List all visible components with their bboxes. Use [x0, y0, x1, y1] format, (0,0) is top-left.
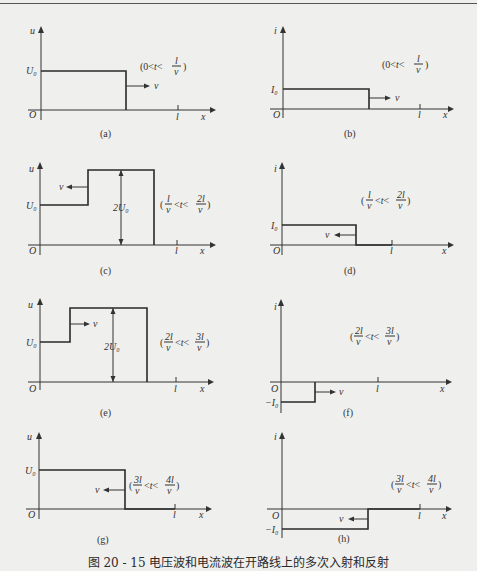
- i-axis-label: i: [274, 25, 277, 36]
- ineq: <t<: [144, 480, 158, 491]
- frac1-num: l: [167, 193, 170, 204]
- frac2-den: v: [167, 485, 172, 496]
- panel-h: v i −I₀ O l x ( 3l v <t< 4l v ) (h): [240, 420, 477, 550]
- time-range-e: (: [160, 337, 164, 349]
- frac2-num: 4l: [428, 473, 436, 484]
- U0-label: U₀: [26, 65, 37, 76]
- origin-label: O: [273, 245, 280, 256]
- frac2-num: 2l: [197, 193, 205, 204]
- current-wave: [283, 89, 369, 109]
- dim-arrow-down-icon: [119, 239, 124, 245]
- x-label: x: [442, 109, 448, 120]
- x-label: x: [199, 245, 205, 256]
- y-axis-arrow-icon: [37, 298, 43, 305]
- panel-caption-f: (f): [343, 407, 353, 419]
- dim-arrow-down-icon: [111, 376, 116, 382]
- neg-I0-label: −I₀: [265, 524, 279, 535]
- origin-label: O: [271, 383, 278, 394]
- l-label: l: [176, 111, 179, 122]
- velocity-arrow-icon: [103, 488, 109, 493]
- frac2-den: v: [198, 204, 203, 215]
- neg-I0-label: −I₀: [265, 397, 279, 408]
- time-range-b: (0<t<: [382, 59, 405, 71]
- x-axis-arrow-icon: [446, 379, 452, 385]
- l-label: l: [174, 383, 177, 394]
- velocity-label: v: [93, 318, 98, 329]
- u-axis-label: u: [27, 431, 32, 442]
- x-axis-arrow-icon: [206, 506, 212, 512]
- x-axis-arrow-icon: [448, 106, 454, 112]
- panel-e: 2U₀ v u U₀ O l x ( 2l v <t< 3l v ) (e): [0, 270, 240, 420]
- frac1-num: 2l: [165, 331, 173, 342]
- u-axis-label: u: [29, 163, 34, 174]
- x-axis-arrow-icon: [446, 506, 452, 512]
- frac-den: v: [416, 64, 421, 75]
- U0-label: U₀: [26, 200, 37, 211]
- frac1-den: v: [135, 485, 140, 496]
- panel-b: v i I₀ O l x (0<t< l v ) (b): [240, 0, 477, 140]
- time-range-h: (: [391, 479, 395, 491]
- origin-label: O: [29, 383, 36, 394]
- paren: ): [176, 480, 179, 492]
- voltage-wave: [41, 71, 126, 110]
- frac1-num: 3l: [395, 473, 404, 484]
- frac1-den: v: [166, 342, 171, 353]
- frac1-den: v: [367, 200, 372, 211]
- panel-caption-h: (h): [338, 533, 350, 545]
- ineq: <t<: [406, 479, 420, 490]
- l-label: l: [376, 383, 379, 394]
- ineq: <t<: [174, 199, 188, 210]
- current-wave: [281, 382, 315, 402]
- u-axis-label: u: [28, 299, 33, 310]
- y-axis-arrow-icon: [279, 432, 285, 439]
- frac2-den: v: [197, 342, 202, 353]
- frac2-den: v: [398, 200, 403, 211]
- l-label: l: [390, 245, 393, 256]
- x-label: x: [198, 509, 204, 520]
- U0-label: U₀: [26, 337, 37, 348]
- l-label: l: [418, 109, 421, 120]
- velocity-arrow-icon: [66, 185, 72, 190]
- velocity-arrow-icon: [348, 517, 354, 522]
- frac1-den: v: [397, 484, 402, 495]
- origin-label: O: [272, 510, 279, 521]
- paren: ): [396, 331, 399, 343]
- time-range-d: (: [361, 195, 365, 207]
- x-label: x: [441, 245, 447, 256]
- panel-c: 2U₀ v u U₀ O l x ( l v <t< 2l v ) (c): [0, 130, 240, 270]
- l-label: l: [418, 510, 421, 521]
- velocity-label: v: [395, 92, 400, 103]
- velocity-arrow-icon: [385, 96, 391, 101]
- l-label: l: [173, 509, 176, 520]
- i-axis-label: i: [274, 163, 277, 174]
- panel-f: v i −I₀ O l x ( 2l v <t< 3l v ) (f): [240, 270, 477, 420]
- panel-g: v u U₀ O l x ( 3l v <t< 4l v ) (g): [0, 420, 240, 550]
- dim-arrow-up-icon: [111, 308, 116, 314]
- ineq: <t<: [365, 331, 379, 342]
- x-label: x: [200, 111, 206, 122]
- y-axis-arrow-icon: [36, 432, 42, 439]
- 2U0-label: 2U₀: [104, 341, 120, 352]
- x-label: x: [439, 383, 445, 394]
- paren: ): [206, 337, 209, 349]
- time-range-a: (0<t<: [140, 61, 163, 73]
- velocity-label: v: [339, 386, 344, 397]
- origin-label: O: [29, 245, 36, 256]
- frac1-num: 3l: [133, 474, 142, 485]
- frac2-num: 3l: [195, 331, 204, 342]
- l-label: l: [175, 245, 178, 256]
- frac2-num: 2l: [397, 189, 405, 200]
- i-axis-label: i: [274, 431, 277, 442]
- y-axis-arrow-icon: [278, 299, 284, 306]
- x-axis-arrow-icon: [208, 379, 214, 385]
- time-range-f: (: [350, 331, 354, 343]
- U0-label: U₀: [25, 465, 36, 476]
- velocity-arrow-icon: [144, 84, 150, 89]
- velocity-label: v: [59, 181, 64, 192]
- frac2-den: v: [387, 336, 392, 347]
- ineq: <t<: [375, 195, 389, 206]
- I0-label: I₀: [270, 84, 278, 95]
- paren: ): [425, 59, 428, 71]
- x-axis-arrow-icon: [210, 107, 216, 113]
- y-axis-arrow-icon: [37, 162, 43, 169]
